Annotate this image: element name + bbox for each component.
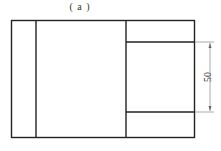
technical-drawing	[0, 0, 221, 151]
dimension-label: 50	[202, 69, 214, 85]
outer-rectangle	[12, 21, 195, 138]
arrow-up-icon	[209, 43, 212, 48]
arrow-down-icon	[209, 106, 212, 111]
